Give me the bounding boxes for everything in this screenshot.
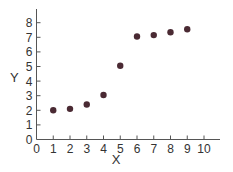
x-tick-label: 0 — [33, 142, 40, 156]
y-tick-label: 6 — [26, 45, 33, 59]
y-tick-label: 3 — [26, 89, 33, 103]
y-tick-label: 7 — [26, 31, 33, 45]
y-ticks: 012345678 — [26, 16, 41, 147]
y-axis-label: Y — [10, 70, 19, 85]
axes — [37, 9, 221, 140]
y-tick-label: 4 — [26, 75, 33, 89]
x-tick-label: 1 — [50, 142, 57, 156]
y-tick-label: 5 — [26, 60, 33, 74]
data-point — [50, 107, 56, 113]
x-tick-label: 2 — [67, 142, 74, 156]
x-ticks: 012345678910 — [33, 136, 211, 156]
data-point — [84, 101, 90, 107]
x-tick-label: 6 — [134, 142, 141, 156]
y-tick-label: 0 — [26, 133, 33, 147]
x-axis-label: X — [112, 152, 121, 167]
y-tick-label: 2 — [26, 104, 33, 118]
data-point — [134, 33, 140, 39]
y-tick-label: 1 — [26, 118, 33, 132]
scatter-chart: 012345678 012345678910 Y X — [0, 0, 233, 172]
x-tick-label: 8 — [167, 142, 174, 156]
data-point — [184, 26, 190, 32]
x-tick-label: 10 — [197, 142, 211, 156]
x-tick-label: 4 — [100, 142, 107, 156]
data-point — [151, 32, 157, 38]
y-tick-label: 8 — [26, 16, 33, 30]
x-tick-label: 3 — [83, 142, 90, 156]
data-points — [50, 26, 190, 113]
data-point — [167, 29, 173, 35]
x-tick-label: 7 — [150, 142, 157, 156]
data-point — [67, 106, 73, 112]
data-point — [100, 92, 106, 98]
data-point — [117, 63, 123, 69]
x-tick-label: 9 — [184, 142, 191, 156]
